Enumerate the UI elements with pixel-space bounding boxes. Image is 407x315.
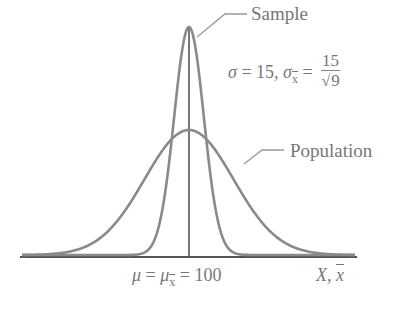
sigma-xbar-subscript: x (292, 72, 298, 86)
mu-eq1: = (141, 265, 160, 285)
population-leader-line (244, 150, 284, 164)
mu-xbar-subscript: x (169, 275, 175, 289)
fraction: 15√9 (321, 52, 340, 91)
sigma-symbol: σ (228, 62, 237, 82)
fraction-denominator: √9 (321, 71, 340, 91)
x-axis-label-X: X, (316, 265, 336, 285)
sigma-xbar-symbol: σ (283, 62, 292, 82)
fraction-numerator: 15 (321, 52, 340, 71)
mu-symbol: μ (132, 265, 141, 285)
mu-xbar-symbol: μ (160, 265, 169, 285)
sqrt-argument: 9 (330, 70, 340, 90)
x-axis-label: X, x (316, 265, 344, 286)
mean-label: μ = μx = 100 (132, 265, 221, 286)
x-axis-label-xbar: x (336, 265, 344, 285)
sigma-xbar-eq: = (298, 62, 317, 82)
sigma-formula: σ = 15, σx = 15√9 (228, 54, 340, 93)
mu-eq2: = 100 (175, 265, 221, 285)
sqrt-icon: √ (321, 72, 330, 89)
sigma-eq: = 15, (237, 62, 283, 82)
population-label: Population (290, 140, 372, 162)
sample-leader-line (197, 14, 247, 37)
sample-label: Sample (251, 3, 308, 25)
